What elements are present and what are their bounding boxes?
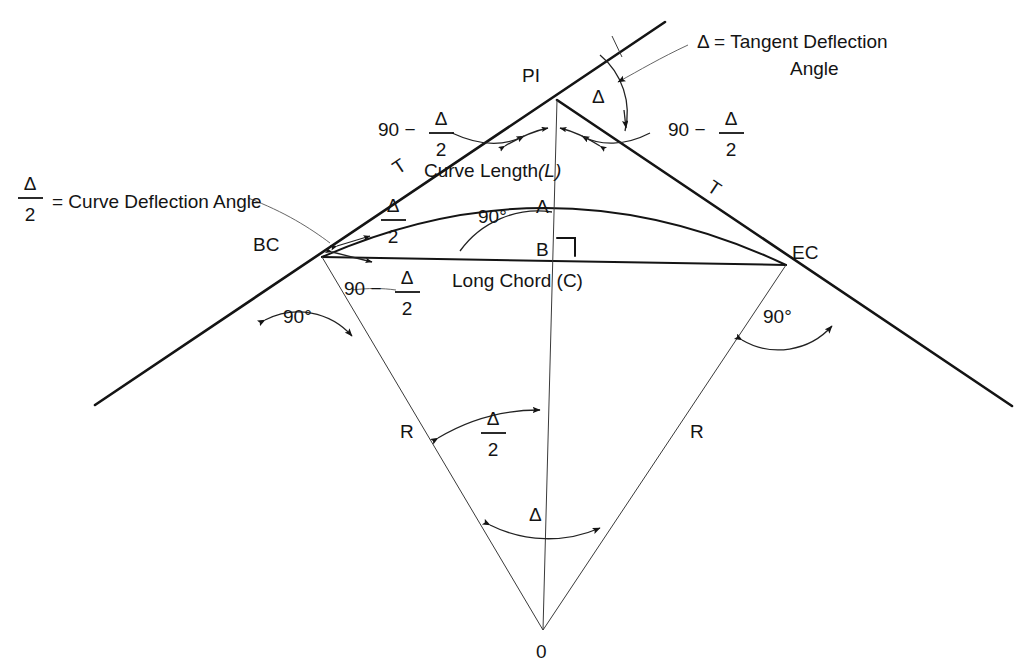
ninety-minus-left-text: 90 −	[378, 119, 416, 140]
legend-curve-deflection-fraction: Δ 2	[18, 173, 43, 225]
ninety-minus-left-den: 2	[436, 139, 447, 160]
tangent-label-right: T	[704, 176, 726, 200]
ninety-minus-bc-den: 2	[402, 298, 413, 319]
delta-label-pi: Δ	[592, 86, 605, 107]
forward-tangent-line	[557, 100, 1012, 406]
curve-length-label: Curve Length	[424, 160, 538, 181]
right-angle-label-ab: 90°	[478, 206, 507, 227]
radius-label-left: R	[400, 421, 414, 442]
curve-defl-frac-numerator: Δ	[24, 173, 37, 194]
half-delta-center-den: 2	[488, 439, 499, 460]
long-chord-line	[322, 257, 786, 265]
back-tangent-line	[95, 22, 665, 405]
ninety-minus-half-delta-left: 90 − Δ 2	[378, 108, 454, 160]
point-label-o: 0	[536, 641, 547, 662]
horizontal-curve-diagram: Δ = Tangent Deflection Angle Δ 2 = Curve…	[0, 0, 1023, 670]
curve-length-symbol: (L)	[538, 160, 561, 181]
half-delta-bc-num: Δ	[387, 195, 400, 216]
ninety-minus-right-den: 2	[726, 139, 737, 160]
tangent-label-left: T	[388, 154, 410, 178]
diagram-canvas: Δ = Tangent Deflection Angle Δ 2 = Curve…	[0, 0, 1023, 670]
right-angle-label-ec: 90°	[763, 306, 792, 327]
half-delta-bc-den: 2	[388, 226, 399, 247]
delta-arc-arrowhead	[624, 110, 626, 128]
point-label-b: B	[536, 239, 549, 260]
long-chord-label: Long Chord (C)	[452, 270, 583, 291]
point-label-bc: BC	[253, 234, 279, 255]
legend-tangent-deflection-line1: Δ = Tangent Deflection	[697, 31, 888, 52]
half-delta-center-num: Δ	[487, 408, 500, 429]
ninety-minus-bc-text: 90 −	[344, 278, 382, 299]
ninety-minus-left-num: Δ	[435, 108, 448, 129]
radius-line-left	[322, 257, 543, 630]
right-angle-marker-b	[557, 238, 575, 256]
ninety-minus-half-delta-bc: 90 − Δ 2	[344, 267, 420, 319]
delta-label-center: Δ	[529, 504, 542, 525]
radius-label-right: R	[690, 421, 704, 442]
legend-curve-deflection-text: = Curve Deflection Angle	[52, 191, 262, 212]
ninety-minus-left-arc	[505, 128, 548, 146]
tangent-deflection-leader	[618, 45, 688, 82]
ninety-minus-half-delta-right: 90 − Δ 2	[668, 108, 744, 160]
point-label-pi: PI	[522, 65, 540, 86]
ninety-degree-arc-ec	[742, 326, 832, 350]
half-delta-center-fraction: Δ 2	[481, 408, 506, 460]
ninety-minus-bc-num: Δ	[401, 267, 414, 288]
curve-defl-frac-denominator: 2	[25, 204, 36, 225]
point-label-a: A	[536, 196, 549, 217]
ninety-minus-right-arc	[560, 128, 600, 146]
radius-line-right	[543, 265, 786, 630]
half-delta-bc-fraction: Δ 2	[381, 195, 406, 247]
ninety-minus-right-num: Δ	[725, 108, 738, 129]
right-angle-label-bc: 90°	[283, 306, 312, 327]
point-label-ec: EC	[792, 242, 818, 263]
ninety-minus-right-text: 90 −	[668, 119, 706, 140]
legend-tangent-deflection-line2: Angle	[790, 58, 839, 79]
